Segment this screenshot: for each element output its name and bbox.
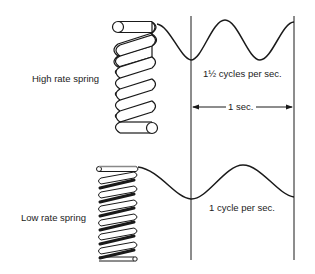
low-rate-wave [138, 165, 294, 199]
time-interval-label: 1 sec. [228, 102, 253, 112]
high-rate-wave [157, 20, 294, 60]
high-rate-frequency-label: 1½ cycles per sec. [203, 69, 282, 79]
low-rate-spring-label: Low rate spring [21, 213, 86, 223]
high-rate-spring-label: High rate spring [32, 74, 99, 84]
spring-rate-diagram: High rate spring Low rate spring 1½ cycl… [0, 0, 315, 274]
high-rate-spring-icon [113, 22, 158, 134]
low-rate-spring-icon [97, 167, 139, 262]
low-rate-frequency-label: 1 cycle per sec. [209, 203, 275, 213]
